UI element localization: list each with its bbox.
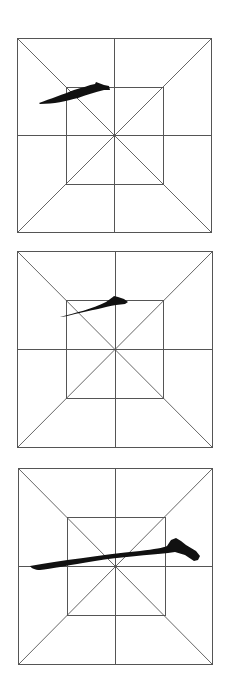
mi-grid-lines-2 [18, 252, 213, 448]
mi-grid-lines-1 [18, 39, 212, 233]
brush-stroke-2 [60, 296, 128, 317]
practice-grid-1 [0, 0, 225, 696]
brush-stroke-1 [39, 82, 110, 104]
